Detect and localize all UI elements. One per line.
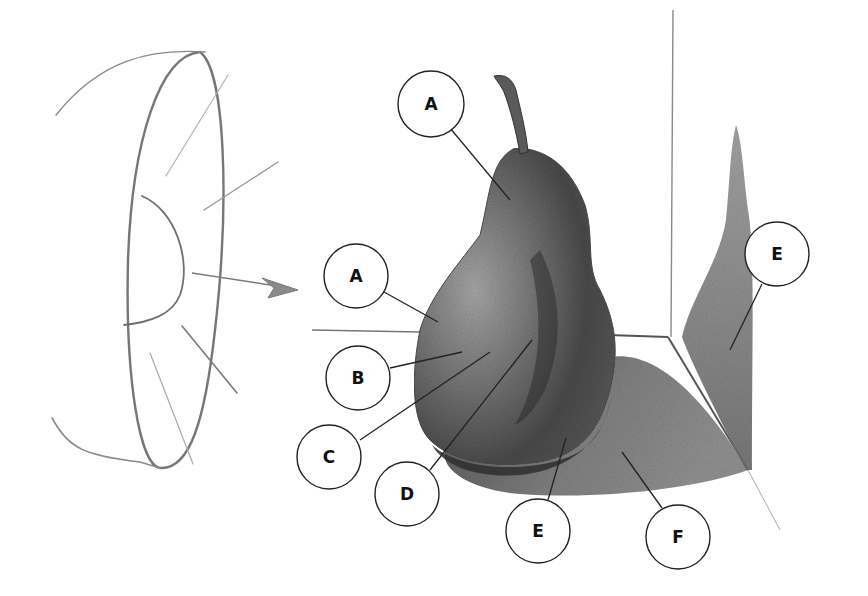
svg-text:A: A bbox=[349, 266, 363, 286]
callout-a-side: A bbox=[324, 244, 438, 322]
light-direction-arrow bbox=[192, 273, 298, 298]
callout-a-top: A bbox=[398, 71, 510, 200]
pear-shading-diagram: A A B C D E F E bbox=[0, 0, 868, 596]
svg-text:B: B bbox=[352, 368, 365, 388]
svg-text:F: F bbox=[672, 527, 684, 547]
svg-text:E: E bbox=[771, 244, 783, 264]
svg-text:A: A bbox=[424, 94, 438, 114]
pear-stem bbox=[494, 76, 528, 154]
svg-text:C: C bbox=[323, 447, 335, 467]
svg-text:D: D bbox=[400, 484, 414, 504]
svg-text:E: E bbox=[532, 521, 544, 541]
pear-body bbox=[414, 148, 615, 465]
lamp-reflector-icon bbox=[52, 51, 278, 468]
